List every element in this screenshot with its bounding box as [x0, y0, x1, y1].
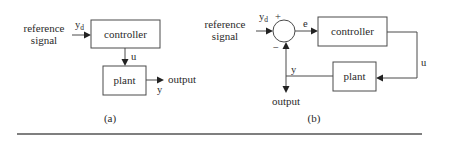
input-arrow-a — [84, 32, 91, 39]
caption-b: (b) — [308, 112, 321, 125]
reference-symbol-b: yd — [259, 11, 268, 24]
feedback-symbol: y — [291, 64, 297, 75]
output-arrow-b — [283, 86, 290, 93]
minus-sign: − — [273, 42, 279, 53]
reference-signal-label-b-line1: reference — [205, 18, 246, 30]
controller-label-a: controller — [104, 28, 147, 40]
reference-symbol-a: yd — [75, 19, 84, 32]
reference-signal-label-b-line2: signal — [212, 30, 238, 42]
controller-label-b: controller — [331, 25, 374, 37]
control-arrow-a — [122, 59, 129, 66]
error-arrow — [311, 28, 318, 35]
plus-sign: + — [275, 11, 281, 22]
plant-label-b: plant — [344, 70, 366, 82]
caption-a: (a) — [104, 112, 117, 125]
output-label-a: output — [168, 73, 196, 85]
reference-signal-label-a-line2: signal — [31, 34, 57, 46]
control-arrow-b — [376, 75, 383, 82]
control-signal-label-a: u — [131, 51, 137, 62]
output-arrow-a — [157, 77, 164, 84]
control-signal-label-b: u — [421, 57, 427, 68]
plant-label-a: plant — [114, 74, 136, 86]
output-label-b: output — [272, 95, 300, 107]
feedback-arrow — [283, 42, 290, 49]
summing-junction — [273, 20, 295, 42]
plant-output-symbol-a: y — [157, 84, 163, 95]
error-symbol: e — [303, 18, 308, 29]
diagram-open-loop: reference signal yd controller u plant o… — [24, 19, 197, 125]
input-arrow-b — [266, 28, 273, 35]
control-diagrams: reference signal yd controller u plant o… — [0, 0, 449, 145]
reference-signal-label-a-line1: reference — [24, 22, 65, 34]
diagram-closed-loop: reference signal yd + − e controller u p… — [205, 11, 427, 125]
